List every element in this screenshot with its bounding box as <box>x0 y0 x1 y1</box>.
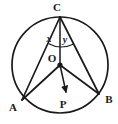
segment-OA <box>22 65 60 100</box>
point-label-C: C <box>53 1 61 13</box>
circle-geometry-diagram: C O A B P x y <box>0 0 118 124</box>
angle-label-x: x <box>46 33 52 44</box>
geometry-canvas: C O A B P x y <box>0 0 118 124</box>
center-point-marker <box>57 62 62 67</box>
point-label-B: B <box>105 93 113 105</box>
angle-label-y: y <box>62 34 68 45</box>
point-label-O: O <box>48 52 57 64</box>
point-label-P: P <box>60 98 67 110</box>
point-label-A: A <box>9 101 17 113</box>
segment-CB <box>60 17 99 94</box>
